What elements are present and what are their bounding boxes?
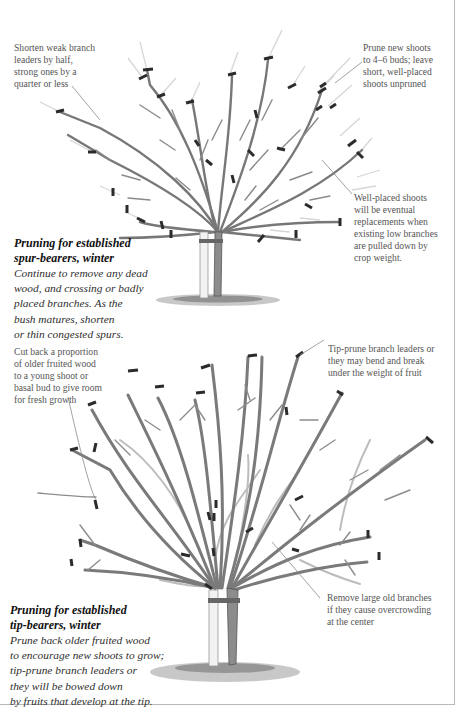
caption-spur-bearers-body: Continue to remove any dead wood, and cr… [14, 266, 148, 342]
annotation-cut-back-older-wood: Cut back a proportion of older fruited w… [14, 346, 102, 406]
bottom-tree-tie [208, 598, 240, 603]
caption-tip-bearers-title: Pruning for established tip-bearers, win… [10, 603, 164, 633]
top-tree-branches [60, 60, 362, 240]
caption-spur-bearers: Pruning for established spur-bearers, wi… [14, 236, 148, 342]
caption-tip-bearers: Pruning for established tip-bearers, win… [10, 603, 164, 709]
annotation-prune-new-shoots: Prune new shoots to 4–6 buds; leave shor… [363, 42, 433, 90]
top-tree-tie [199, 239, 223, 243]
annotation-replacement-shoots: Well-placed shoots will be eventual repl… [354, 192, 438, 264]
caption-spur-bearers-title: Pruning for established spur-bearers, wi… [14, 236, 148, 266]
top-tree-twigs [96, 100, 330, 210]
caption-tip-bearers-body: Prune back older fruited wood to encoura… [10, 633, 164, 709]
annotation-remove-old-branches: Remove large old branches if they cause … [327, 592, 432, 628]
annotation-tip-prune-leaders: Tip-prune branch leaders or they may ben… [328, 343, 434, 379]
annotation-shorten-leaders: Shorten weak branch leaders by half, str… [14, 42, 95, 90]
top-tree-cut-marks [56, 57, 363, 242]
